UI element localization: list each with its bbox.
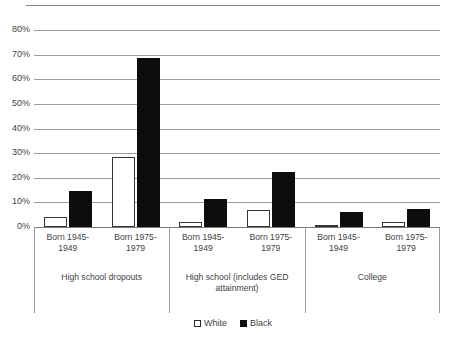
y-axis-tick-label: 40% — [0, 124, 30, 133]
gridline — [34, 129, 440, 130]
bar-black — [340, 212, 363, 227]
y-axis-tick-label: 60% — [0, 74, 30, 83]
top-divider-rule — [26, 5, 440, 6]
legend-label: Black — [250, 318, 272, 328]
y-axis-tick-label: 20% — [0, 173, 30, 182]
y-axis-tick-labels: 80%70%60%50%40%30%20%10%0% — [0, 30, 30, 227]
y-axis-tick-label: 10% — [0, 197, 30, 206]
y-axis-tick-label: 80% — [0, 25, 30, 34]
bar-black — [407, 209, 430, 227]
gridline — [34, 79, 440, 80]
bar-black — [204, 199, 227, 227]
y-axis-tick-label: 70% — [0, 50, 30, 59]
y-axis-tick-label: 50% — [0, 99, 30, 108]
category-sub-label: Born 1945- 1949 — [169, 232, 237, 254]
legend-label: White — [204, 318, 227, 328]
category-group-label: High school (includes GED attainment) — [172, 272, 301, 294]
category-sub-label: Born 1975- 1979 — [372, 232, 440, 254]
plot-area — [34, 30, 440, 227]
category-axis: Born 1945- 1949Born 1975- 1979High schoo… — [34, 227, 440, 313]
legend-item-black[interactable]: Black — [240, 318, 272, 328]
bar-white — [112, 157, 135, 227]
gridline — [34, 178, 440, 179]
category-sub-label: Born 1975- 1979 — [102, 232, 170, 254]
gridline — [34, 104, 440, 105]
category-sub-label: Born 1975- 1979 — [237, 232, 305, 254]
gridline — [34, 153, 440, 154]
y-axis-tick-label: 30% — [0, 148, 30, 157]
white-square-outline-icon — [194, 320, 201, 327]
black-square-filled-icon — [240, 320, 247, 327]
bar-black — [69, 191, 92, 227]
bar-black — [272, 172, 295, 227]
category-sub-label: Born 1945- 1949 — [34, 232, 102, 254]
legend-item-white[interactable]: White — [194, 318, 227, 328]
gridline — [34, 202, 440, 203]
y-axis-tick-label: 0% — [0, 222, 30, 231]
bar-white — [44, 217, 67, 227]
chart-legend: WhiteBlack — [0, 318, 466, 328]
bar-white — [247, 210, 270, 227]
gridline — [34, 55, 440, 56]
category-group-label: High school dropouts — [37, 272, 166, 283]
category-sub-label: Born 1945- 1949 — [305, 232, 373, 254]
category-group-label: College — [308, 272, 437, 283]
bar-chart: 80%70%60%50%40%30%20%10%0% Born 1945- 19… — [0, 0, 466, 339]
bar-black — [137, 58, 160, 227]
gridline — [34, 30, 440, 31]
